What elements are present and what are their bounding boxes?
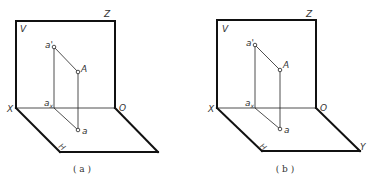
figure-a: VZXOa'AaxaH( a ) — [6, 9, 158, 174]
point-a — [278, 127, 282, 131]
label-x-axis: X — [6, 104, 14, 114]
h-plane-right-edge — [316, 108, 360, 151]
label-y-axis: Y — [360, 142, 367, 152]
h-plane-left-edge — [16, 108, 60, 152]
projection-diagram: VZXOa'AaxaH( a )VZXOa'AaxaHY( b ) — [0, 0, 371, 181]
label-v-plane: V — [222, 24, 229, 34]
figure-caption: ( a ) — [73, 164, 91, 174]
label-point-A: A — [282, 60, 289, 70]
label-a: a — [284, 125, 290, 135]
label-z-axis: Z — [305, 9, 313, 19]
projector-ax-a — [54, 108, 78, 130]
label-a-prime: a' — [246, 38, 254, 48]
label-a: a — [82, 126, 88, 136]
projector-a-prime-A — [54, 47, 78, 72]
label-z-axis: Z — [103, 9, 111, 19]
point-a — [76, 128, 80, 132]
label-origin: O — [119, 103, 126, 113]
figure-caption: ( b ) — [276, 164, 295, 174]
point-A — [76, 70, 80, 74]
h-plane-right-edge — [115, 108, 158, 152]
projector-a-prime-A — [255, 45, 280, 70]
label-x-axis: X — [207, 104, 215, 114]
figure-b: VZXOa'AaxaHY( b ) — [207, 9, 367, 174]
projector-ax-a — [255, 108, 280, 129]
label-a-x: ax — [245, 98, 255, 109]
label-a-prime: a' — [45, 40, 53, 50]
label-point-A: A — [80, 64, 87, 74]
h-plane-left-edge — [217, 108, 262, 151]
label-v-plane: V — [20, 24, 27, 34]
label-a-x: ax — [44, 98, 54, 109]
label-origin: O — [320, 103, 327, 113]
point-A — [278, 68, 282, 72]
